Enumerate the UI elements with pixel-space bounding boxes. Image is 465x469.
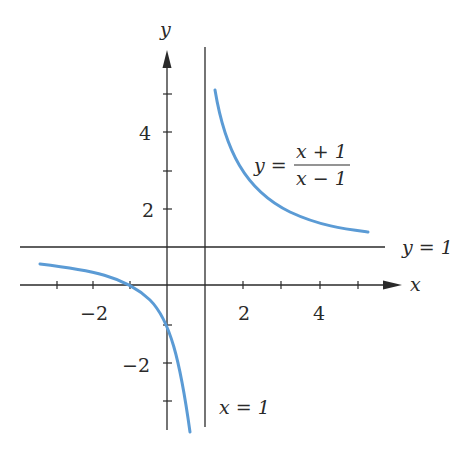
vertical-asymptote-label: x = 1 (219, 396, 270, 418)
x-axis-label: x (410, 273, 421, 295)
equation-numerator: x + 1 (296, 140, 347, 162)
horizontal-asymptote-label: y = 1 (401, 236, 453, 258)
rational-function-graph: y x 4 2 −2 −2 2 4 y = 1 x = 1 y = x + 1 … (0, 0, 465, 469)
tick-label-neg2-y: −2 (122, 354, 150, 376)
tick-label-2: 2 (142, 199, 154, 221)
equation-denominator: x − 1 (296, 167, 347, 189)
tick-label-neg2-x: −2 (80, 302, 108, 324)
x-axis-arrow-icon (383, 281, 402, 290)
equation-lhs: y = (253, 154, 287, 176)
tick-label-4-x: 4 (313, 302, 325, 324)
y-axis-label: y (159, 18, 171, 40)
y-axis-arrow-icon (163, 50, 172, 68)
tick-label-2-x: 2 (238, 302, 250, 324)
function-equation: y = x + 1 x − 1 (253, 140, 350, 189)
tick-label-4: 4 (139, 122, 151, 144)
